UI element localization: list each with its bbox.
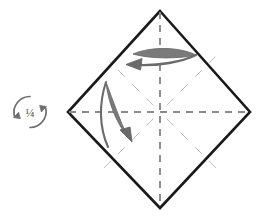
paper-outline	[68, 11, 250, 208]
diagram-canvas: Origami step: rotate one quarter turn an…	[0, 0, 265, 218]
rotation-symbol: ¼	[14, 96, 47, 127]
rotation-fraction-label: ¼	[26, 106, 35, 120]
origami-diagram: Origami step: rotate one quarter turn an…	[0, 0, 265, 218]
